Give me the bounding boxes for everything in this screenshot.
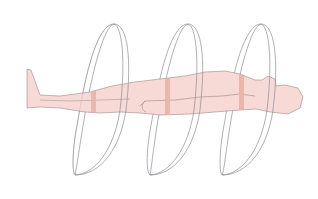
coil-body-illustration: [0, 0, 318, 199]
band-legs: [91, 60, 96, 120]
diagram-canvas: [0, 0, 318, 199]
band-torso: [165, 60, 170, 120]
human-body: [27, 60, 303, 120]
